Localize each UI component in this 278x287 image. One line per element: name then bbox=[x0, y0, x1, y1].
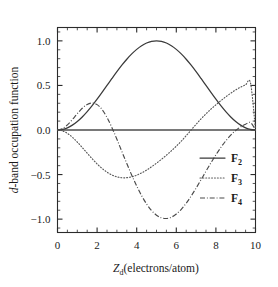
series-curve-f2 bbox=[58, 41, 256, 130]
y-tick-label: −1.0 bbox=[31, 213, 51, 225]
y-tick-label: 0.5 bbox=[37, 79, 51, 91]
y-axis-title-rest: -band occupation function bbox=[8, 67, 21, 188]
y-axis-title: d-band occupation function bbox=[8, 67, 21, 194]
y-axis-tick-labels: 1.00.50.0−0.5−1.0 bbox=[31, 35, 51, 225]
x-tick-label: 10 bbox=[250, 239, 262, 251]
chart-plot-area: 0246810 1.00.50.0−0.5−1.0 Zd(electrons/a… bbox=[0, 0, 278, 287]
legend-label-f4: F4 bbox=[231, 192, 242, 207]
x-tick-label: 4 bbox=[134, 239, 140, 251]
y-tick-label: 0.0 bbox=[37, 124, 51, 136]
chart-figure: 0246810 1.00.50.0−0.5−1.0 Zd(electrons/a… bbox=[0, 0, 278, 287]
legend-label-f3: F3 bbox=[231, 172, 242, 187]
x-tick-label: 6 bbox=[174, 239, 180, 251]
x-axis-title: Zd(electrons/atom) bbox=[113, 262, 199, 277]
y-tick-label: −0.5 bbox=[31, 169, 51, 181]
series-curve-f4 bbox=[58, 103, 256, 219]
chart-legend: F2 F3 F4 bbox=[200, 152, 242, 207]
x-tick-label: 2 bbox=[94, 239, 100, 251]
x-axis-title-rest: (electrons/atom) bbox=[124, 262, 200, 275]
legend-label-f2: F2 bbox=[231, 152, 242, 167]
x-tick-label: 0 bbox=[55, 239, 61, 251]
x-tick-label: 8 bbox=[213, 239, 219, 251]
x-axis-tick-labels: 0246810 bbox=[55, 239, 262, 251]
series-curve-f3 bbox=[58, 80, 256, 178]
y-tick-label: 1.0 bbox=[37, 35, 51, 47]
